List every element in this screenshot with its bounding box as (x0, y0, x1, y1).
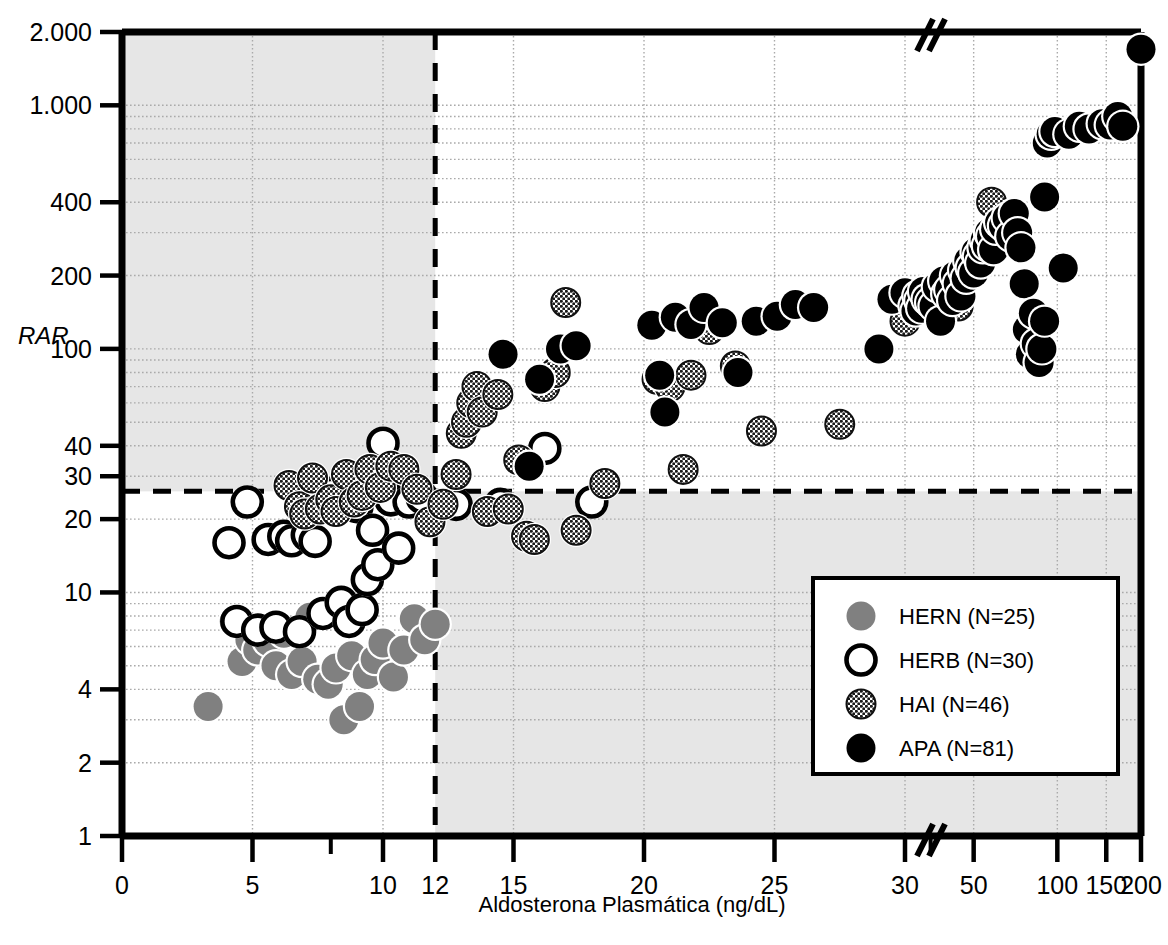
data-point-hai (520, 525, 549, 554)
data-point-hai (551, 288, 580, 317)
data-point-hai (494, 495, 523, 524)
data-point-apa (650, 398, 679, 427)
data-point-hern (194, 692, 223, 721)
data-point-hai (483, 380, 512, 409)
data-point-apa (1030, 183, 1059, 212)
data-point-apa (1049, 253, 1078, 282)
data-point-apa (489, 340, 518, 369)
data-point-apa (1108, 112, 1137, 141)
data-point-apa (1006, 233, 1035, 262)
data-point-hern (421, 610, 450, 639)
y-tick-label: 40 (64, 432, 92, 460)
data-point-hai (429, 490, 458, 519)
y-axis-label: RAR (18, 322, 69, 349)
data-point-apa (723, 358, 752, 387)
data-point-apa (708, 308, 737, 337)
y-tick-label: 4 (78, 675, 92, 703)
x-tick-label: 5 (246, 871, 260, 899)
data-point-hai (676, 361, 705, 390)
x-tick-label: 10 (369, 871, 397, 899)
x-tick-label: 50 (960, 871, 988, 899)
y-tick-label: 2 (78, 749, 92, 777)
data-point-herb (384, 534, 413, 563)
data-point-apa (1127, 35, 1156, 64)
x-tick-label: 30 (891, 871, 919, 899)
x-tick-label: 12 (421, 871, 449, 899)
data-point-herb (215, 528, 244, 557)
y-tick-label: 10 (64, 578, 92, 606)
data-point-apa (562, 331, 591, 360)
y-tick-label: 1 (78, 822, 92, 850)
legend-label-apa: APA (N=81) (899, 736, 1014, 761)
data-point-apa (515, 452, 544, 481)
data-point-apa (864, 334, 893, 363)
chart-figure: 124102030401002004001.0002.0000510121520… (0, 0, 1168, 945)
y-tick-label: 200 (50, 262, 92, 290)
legend-marker-hai (847, 690, 876, 719)
x-tick-label: 100 (1036, 871, 1078, 899)
data-point-herb (358, 516, 387, 545)
data-point-hai (442, 460, 471, 489)
chart-legend[interactable]: HERN (N=25)HERB (N=30)HAI (N=46)APA (N=8… (813, 578, 1118, 774)
data-point-apa (645, 361, 674, 390)
y-tick-label: 400 (50, 188, 92, 216)
y-tick-label: 2.000 (29, 18, 92, 46)
data-point-hern (345, 692, 374, 721)
y-tick-label: 20 (64, 505, 92, 533)
data-point-hai (669, 455, 698, 484)
legend-marker-hern (847, 602, 876, 631)
x-tick-label: 200 (1120, 871, 1162, 899)
data-point-hai (825, 410, 854, 439)
data-point-apa (525, 365, 554, 394)
legend-label-hai: HAI (N=46) (899, 692, 1010, 717)
data-point-herb (301, 527, 330, 556)
scatter-plot-svg: 124102030401002004001.0002.0000510121520… (0, 0, 1168, 945)
legend-label-hern: HERN (N=25) (899, 604, 1035, 629)
data-point-hai (562, 516, 591, 545)
y-tick-label: 1.000 (29, 91, 92, 119)
legend-marker-herb (847, 646, 876, 675)
data-point-hai (747, 417, 776, 446)
legend-label-herb: HERB (N=30) (899, 648, 1034, 673)
data-point-apa (1030, 307, 1059, 336)
data-point-herb (233, 488, 262, 517)
legend-marker-apa (847, 734, 876, 763)
data-point-hai (590, 469, 619, 498)
data-point-apa (1010, 269, 1039, 298)
data-point-herb (348, 595, 377, 624)
data-point-apa (799, 293, 828, 322)
data-point-apa (1027, 334, 1056, 363)
x-tick-label: 0 (115, 871, 129, 899)
x-axis-label: Aldosterona Plasmática (ng/dL) (479, 892, 786, 917)
y-tick-label: 30 (64, 462, 92, 490)
